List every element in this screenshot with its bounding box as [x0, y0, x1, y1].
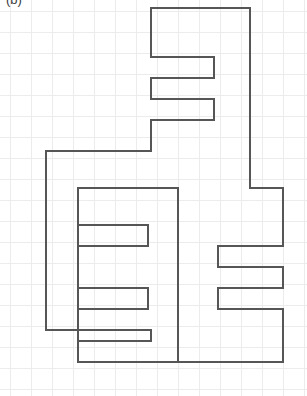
orthogonal-polygon-figure [0, 0, 307, 396]
figure-panel: (b) [0, 0, 307, 396]
panel-label: (b) [6, 0, 22, 6]
